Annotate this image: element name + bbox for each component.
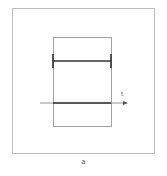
diagram-canvas: t [0, 0, 167, 176]
figure-caption: a [0, 158, 167, 166]
axis-label-t: t [121, 90, 124, 97]
arrow-head-icon [123, 101, 128, 105]
inner-rectangle [54, 38, 112, 127]
interval-bar [53, 54, 111, 68]
